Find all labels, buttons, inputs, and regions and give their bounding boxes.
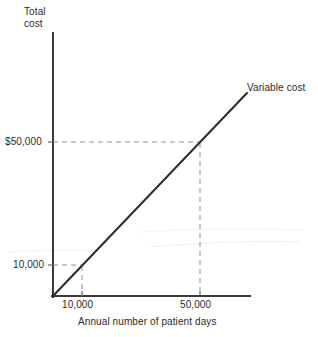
y-axis-title-line-2: cost <box>24 18 46 30</box>
variable-cost-line <box>53 93 247 296</box>
y-tick-label-50000: $50,000 <box>5 136 42 148</box>
x-tick-label-50000: 50,000 <box>180 299 211 311</box>
chart-figure: Total cost $50,000 10,000 10,000 50,000 … <box>0 0 318 337</box>
series-label-variable-cost: Variable cost <box>247 82 305 94</box>
chart-canvas <box>0 0 318 337</box>
x-axis-title: Annual number of patient days <box>78 316 217 328</box>
x-tick-label-10000: 10,000 <box>62 299 93 311</box>
y-axis-title-line-1: Total <box>24 6 46 18</box>
y-tick-label-10000: 10,000 <box>13 259 44 271</box>
y-axis-title: Total cost <box>24 6 46 29</box>
